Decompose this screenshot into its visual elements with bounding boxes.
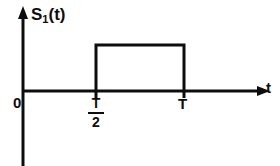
y-axis-label-suffix: (t) (48, 5, 65, 24)
origin-label: 0 (13, 95, 21, 110)
fraction-numerator: T (85, 96, 107, 111)
pulse-waveform-path (96, 45, 184, 91)
x-axis-label: t (266, 80, 271, 95)
signal-waveform-figure: S1(t) 0 t T 2 T (0, 0, 280, 166)
fraction-denominator: 2 (85, 115, 107, 130)
y-axis-arrowhead (18, 6, 28, 19)
y-axis-label-base: S (31, 5, 42, 24)
y-axis-label: S1(t) (31, 6, 65, 25)
tick-label-period: T (178, 96, 187, 111)
tick-label-half-period: T 2 (85, 96, 107, 129)
